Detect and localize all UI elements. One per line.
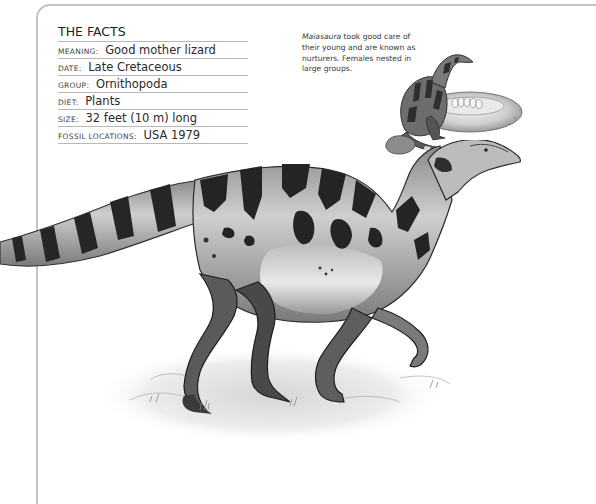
fact-label: SIZE: xyxy=(58,115,79,124)
fact-label: DATE: xyxy=(58,64,82,73)
fact-label: MEANING: xyxy=(58,47,99,56)
fact-row-group: GROUP: Ornithopoda xyxy=(58,76,248,93)
fact-value: Late Cretaceous xyxy=(88,60,182,74)
fact-label: DIET: xyxy=(58,98,79,107)
facts-box: THE FACTS MEANING: Good mother lizard DA… xyxy=(58,24,248,144)
facts-title: THE FACTS xyxy=(58,24,248,42)
fact-value: Plants xyxy=(85,94,120,108)
fact-row-date: DATE: Late Cretaceous xyxy=(58,59,248,76)
fact-value: 32 feet (10 m) long xyxy=(86,111,198,125)
fact-row-meaning: MEANING: Good mother lizard xyxy=(58,42,248,59)
fact-value: Ornithopoda xyxy=(96,77,168,91)
fact-row-diet: DIET: Plants xyxy=(58,93,248,110)
fact-row-size: SIZE: 32 feet (10 m) long xyxy=(58,110,248,127)
caption-species-name: Maiasaura xyxy=(302,32,341,41)
main-dinosaur-illustration xyxy=(0,140,547,462)
fact-value: Good mother lizard xyxy=(105,43,216,57)
fact-label: GROUP: xyxy=(58,81,89,90)
